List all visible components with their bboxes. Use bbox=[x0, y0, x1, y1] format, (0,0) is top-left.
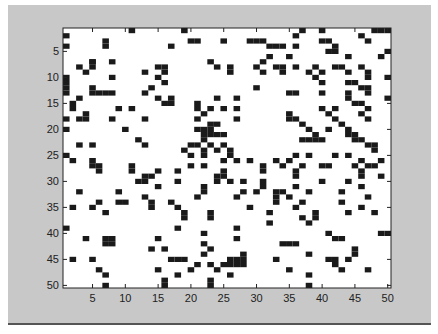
matrix-cell bbox=[306, 127, 313, 132]
matrix-cell bbox=[129, 28, 136, 33]
matrix-cell bbox=[339, 189, 346, 194]
matrix-cell bbox=[306, 220, 313, 225]
matrix-cell bbox=[306, 189, 313, 194]
matrix-cell bbox=[89, 142, 96, 147]
matrix-cell bbox=[227, 179, 234, 184]
matrix-cell bbox=[96, 163, 103, 168]
matrix-cell bbox=[345, 179, 352, 184]
matrix-cell bbox=[339, 122, 346, 127]
matrix-cell bbox=[312, 215, 319, 220]
matrix-cell bbox=[63, 90, 70, 95]
matrix-cell bbox=[260, 59, 267, 64]
matrix-cell bbox=[319, 90, 326, 95]
y-tick-label: 50 bbox=[47, 279, 59, 291]
matrix-cell bbox=[168, 44, 175, 49]
matrix-cell bbox=[83, 116, 90, 121]
matrix-cell bbox=[220, 174, 227, 179]
matrix-cell bbox=[115, 106, 122, 111]
matrix-cell bbox=[371, 210, 378, 215]
matrix-cell bbox=[339, 200, 346, 205]
heatmap-plot: 5101520253035404550 5101520253035404550 bbox=[8, 5, 431, 323]
matrix-cell bbox=[293, 90, 300, 95]
matrix-cell bbox=[365, 75, 372, 80]
matrix-cell bbox=[332, 153, 339, 158]
matrix-cell bbox=[293, 44, 300, 49]
matrix-cell bbox=[299, 28, 306, 33]
matrix-cell bbox=[378, 231, 385, 236]
matrix-cell bbox=[207, 106, 214, 111]
matrix-cell bbox=[352, 163, 359, 168]
matrix-cell bbox=[247, 205, 254, 210]
matrix-cell bbox=[358, 85, 365, 90]
y-tick-label: 10 bbox=[47, 71, 59, 83]
matrix-cell bbox=[181, 210, 188, 215]
matrix-cell bbox=[234, 116, 241, 121]
matrix-cell bbox=[201, 252, 208, 257]
matrix-cell bbox=[201, 132, 208, 137]
matrix-cell bbox=[168, 200, 175, 205]
matrix-cell bbox=[168, 257, 175, 262]
y-tick-label: 45 bbox=[47, 253, 59, 265]
matrix-cell bbox=[142, 70, 149, 75]
matrix-cell bbox=[365, 163, 372, 168]
matrix-cell bbox=[306, 137, 313, 142]
y-tick-label: 40 bbox=[47, 227, 59, 239]
matrix-cell bbox=[332, 262, 339, 267]
matrix-cell bbox=[89, 85, 96, 90]
matrix-cell bbox=[253, 38, 260, 43]
matrix-cell bbox=[319, 80, 326, 85]
matrix-cell bbox=[273, 44, 280, 49]
matrix-cell bbox=[175, 168, 182, 173]
matrix-cell bbox=[201, 127, 208, 132]
matrix-cell bbox=[89, 205, 96, 210]
matrix-cell bbox=[240, 252, 247, 257]
matrix-cell bbox=[306, 70, 313, 75]
matrix-cell bbox=[286, 90, 293, 95]
matrix-cell bbox=[161, 283, 168, 288]
matrix-cell bbox=[286, 54, 293, 59]
matrix-cell bbox=[214, 267, 221, 272]
matrix-cell bbox=[122, 127, 129, 132]
x-tick-label: 15 bbox=[152, 292, 164, 304]
matrix-cell bbox=[286, 194, 293, 199]
matrix-cell bbox=[293, 168, 300, 173]
matrix-cell bbox=[148, 174, 155, 179]
matrix-cell bbox=[273, 257, 280, 262]
matrix-cell bbox=[194, 127, 201, 132]
matrix-cell bbox=[332, 257, 339, 262]
matrix-cell bbox=[135, 179, 142, 184]
matrix-cell bbox=[148, 85, 155, 90]
matrix-cell bbox=[227, 262, 234, 267]
matrix-cell bbox=[207, 210, 214, 215]
matrix-cell bbox=[194, 262, 201, 267]
matrix-cell bbox=[207, 122, 214, 127]
x-tick-label: 40 bbox=[316, 292, 328, 304]
matrix-cell bbox=[214, 96, 221, 101]
matrix-cell bbox=[286, 111, 293, 116]
y-tick-label: 5 bbox=[53, 45, 59, 57]
matrix-cell bbox=[293, 116, 300, 121]
matrix-cell bbox=[155, 64, 162, 69]
matrix-cell bbox=[260, 179, 267, 184]
matrix-cell bbox=[194, 38, 201, 43]
matrix-cell bbox=[89, 64, 96, 69]
matrix-cell bbox=[155, 236, 162, 241]
matrix-cell bbox=[279, 44, 286, 49]
matrix-cell bbox=[227, 272, 234, 277]
matrix-cell bbox=[83, 70, 90, 75]
matrix-cell bbox=[358, 205, 365, 210]
matrix-cell bbox=[365, 116, 372, 121]
matrix-cell bbox=[142, 142, 149, 147]
matrix-cell bbox=[207, 262, 214, 267]
matrix-cell bbox=[371, 142, 378, 147]
matrix-cell bbox=[89, 90, 96, 95]
matrix-cell bbox=[63, 33, 70, 38]
matrix-cell bbox=[234, 106, 241, 111]
matrix-cell bbox=[102, 44, 109, 49]
matrix-cell bbox=[161, 80, 168, 85]
matrix-cell bbox=[365, 267, 372, 272]
matrix-cell bbox=[293, 64, 300, 69]
matrix-cell bbox=[220, 168, 227, 173]
matrix-cell bbox=[115, 189, 122, 194]
matrix-cell bbox=[312, 132, 319, 137]
